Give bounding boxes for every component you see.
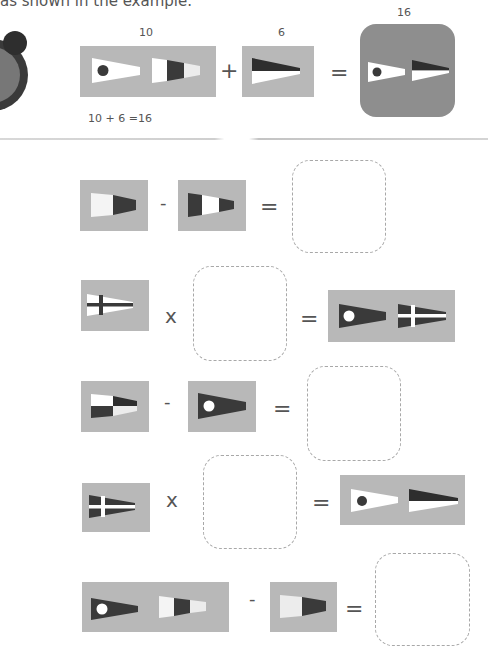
flag-6-icon (412, 60, 452, 82)
example-term2-value: 6 (278, 26, 285, 39)
problem-5-answer-box[interactable] (375, 553, 470, 646)
flag-1-inverse-icon (339, 304, 389, 330)
problem-5-operator: - (249, 590, 256, 608)
problem-4-operator: x (166, 490, 178, 510)
problem-4-result-panel (340, 475, 465, 525)
flag-8-icon (280, 595, 328, 621)
example-caption: 10 + 6 =16 (88, 112, 152, 125)
mascot-icon (0, 30, 30, 110)
flag-0-icon (152, 58, 204, 86)
problem-1-equals: = (260, 196, 278, 218)
flag-0-icon (159, 596, 211, 622)
flag-4-icon (87, 294, 137, 320)
problem-4-answer-box[interactable] (203, 455, 297, 549)
flag-5-icon (91, 394, 141, 420)
example-term1-value: 10 (139, 26, 153, 39)
flag-7-icon (188, 193, 236, 219)
problem-3-right-panel (188, 381, 256, 432)
problem-3-answer-box[interactable] (307, 366, 401, 461)
example-result-value: 16 (397, 6, 411, 19)
flag-4-inverse-icon (89, 495, 139, 521)
example-plus-operator: + (220, 60, 238, 82)
problem-1-operator: - (160, 194, 167, 212)
problem-1-right-panel (178, 180, 246, 231)
flag-1-icon (92, 58, 142, 86)
flag-1-icon (368, 62, 408, 84)
problem-3-equals: = (273, 398, 291, 420)
section-divider (0, 138, 488, 140)
problem-4-equals: = (312, 492, 330, 514)
example-equals-operator: = (330, 62, 348, 84)
problem-1-answer-box[interactable] (292, 160, 386, 253)
problem-2-result-panel (328, 290, 455, 342)
problem-2-operator: x (165, 306, 177, 326)
flag-1-inverse-icon (198, 393, 248, 421)
instruction-text: as shown in the example. (0, 0, 192, 10)
example-term2-panel (242, 46, 314, 97)
problem-5-left-panel (82, 582, 229, 632)
flag-4-inverse-icon (398, 304, 450, 330)
problem-4-left-panel (82, 483, 150, 532)
flag-6-icon (409, 489, 461, 515)
problem-1-left-panel (80, 180, 148, 231)
problem-3-left-panel (81, 381, 149, 432)
example-result-panel (360, 24, 455, 117)
flag-1-inverse-icon (91, 598, 141, 624)
problem-5-right-panel (270, 582, 337, 632)
flag-6-icon (252, 58, 302, 86)
problem-5-equals: = (345, 598, 363, 620)
problem-3-operator: - (164, 393, 171, 411)
flag-8-icon (91, 193, 139, 219)
flag-1-icon (351, 489, 401, 515)
problem-2-equals: = (300, 308, 318, 330)
example-term1-panel (80, 46, 216, 97)
problem-2-answer-box[interactable] (193, 266, 287, 361)
problem-2-left-panel (81, 280, 149, 331)
